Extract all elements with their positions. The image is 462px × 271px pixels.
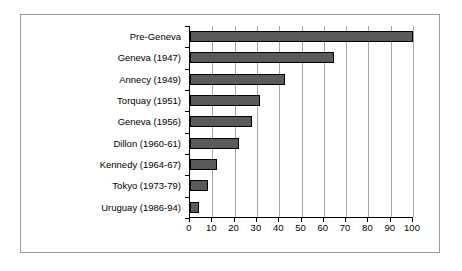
bar-row <box>190 197 413 218</box>
category-label: Torquay (1951) <box>21 90 187 111</box>
category-tick <box>185 47 189 48</box>
value-tick-label: 20 <box>228 223 239 233</box>
value-tick-label: 90 <box>384 223 395 233</box>
value-tick-label: 30 <box>251 223 262 233</box>
category-label: Geneva (1947) <box>21 47 187 68</box>
bar <box>190 180 208 191</box>
bar <box>190 138 239 149</box>
bar-row <box>190 111 413 132</box>
bar-row <box>190 90 413 111</box>
category-tick <box>185 69 189 70</box>
bar <box>190 31 413 42</box>
category-label: Pre-Geneva <box>21 26 187 47</box>
category-tick <box>185 133 189 134</box>
category-tick <box>185 197 189 198</box>
bar-row <box>190 133 413 154</box>
bar-row <box>190 69 413 90</box>
category-label: Kennedy (1964-67) <box>21 154 187 175</box>
value-tick-label: 40 <box>273 223 284 233</box>
bar <box>190 202 199 213</box>
chart-plot-wrapper: Pre-GenevaGeneva (1947)Annecy (1949)Torq… <box>21 15 441 254</box>
value-tick-label: 80 <box>362 223 373 233</box>
bar <box>190 95 260 106</box>
bar <box>190 159 217 170</box>
chart-frame: Pre-GenevaGeneva (1947)Annecy (1949)Torq… <box>20 14 440 253</box>
bar-row <box>190 154 413 175</box>
value-tick-label: 70 <box>340 223 351 233</box>
category-tick <box>185 26 189 27</box>
value-tick-label: 60 <box>318 223 329 233</box>
bar-series <box>190 26 413 218</box>
category-label: Annecy (1949) <box>21 69 187 90</box>
bar-row <box>190 47 413 68</box>
category-label: Uruguay (1986-94) <box>21 197 187 218</box>
bar-row <box>190 26 413 47</box>
category-label: Geneva (1956) <box>21 111 187 132</box>
bar <box>190 74 285 85</box>
gridline <box>413 26 414 217</box>
category-tick <box>185 111 189 112</box>
category-tick <box>185 154 189 155</box>
category-axis-labels: Pre-GenevaGeneva (1947)Annecy (1949)Torq… <box>21 26 187 218</box>
category-tick <box>185 90 189 91</box>
value-tick-label: 0 <box>186 223 191 233</box>
value-tick-label: 10 <box>206 223 217 233</box>
value-tick-label: 50 <box>295 223 306 233</box>
value-axis-labels: 0102030405060708090100 <box>189 223 413 237</box>
value-tick-label: 100 <box>404 223 420 233</box>
bar <box>190 52 334 63</box>
category-label: Dillon (1960-61) <box>21 133 187 154</box>
category-label: Tokyo (1973-79) <box>21 175 187 196</box>
bar <box>190 116 252 127</box>
category-tick <box>185 175 189 176</box>
bar-row <box>190 175 413 196</box>
